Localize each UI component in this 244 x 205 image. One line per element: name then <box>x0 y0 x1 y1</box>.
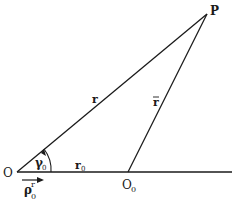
line-r <box>17 14 207 172</box>
label-rho-superscript: r <box>31 180 35 189</box>
label-rho-subscript: 0 <box>31 192 36 201</box>
label-O0-subscript: 0 <box>131 185 136 194</box>
label-r0-subscript: 0 <box>81 165 85 173</box>
rho-arrowhead-icon <box>37 177 44 183</box>
line-rbar <box>128 14 207 172</box>
label-gamma0-subscript: 0 <box>42 164 46 172</box>
label-O: O <box>3 166 13 180</box>
diagram-canvas: P O O 0 r r r 0 γ 0 ρ r 0 <box>0 0 244 205</box>
geometry-figure: P O O 0 r r r 0 γ 0 ρ r 0 <box>0 0 244 205</box>
label-P: P <box>210 4 219 18</box>
label-r: r <box>92 93 98 106</box>
label-rbar: r <box>153 96 159 109</box>
